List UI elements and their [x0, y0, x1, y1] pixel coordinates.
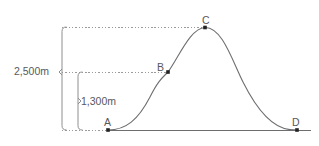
point-marker-B	[166, 70, 170, 74]
point-label-c: C	[202, 15, 210, 26]
profile-curve	[108, 27, 297, 130]
point-marker-A	[106, 128, 110, 132]
dimension-brackets	[59, 27, 83, 130]
point-marker-D	[295, 128, 299, 132]
curve-diagram: 2,500m 1,300m A B C D	[0, 0, 319, 146]
dimension-label-total: 2,500m	[14, 66, 49, 77]
point-marker-C	[203, 26, 207, 30]
point-label-a: A	[104, 117, 111, 128]
outer-bracket-path	[62, 27, 67, 130]
point-label-d: D	[292, 117, 300, 128]
point-markers	[106, 26, 299, 132]
dimension-label-partial: 1,300m	[81, 96, 116, 107]
point-label-b: B	[157, 62, 164, 73]
guide-lines	[62, 27, 205, 130]
